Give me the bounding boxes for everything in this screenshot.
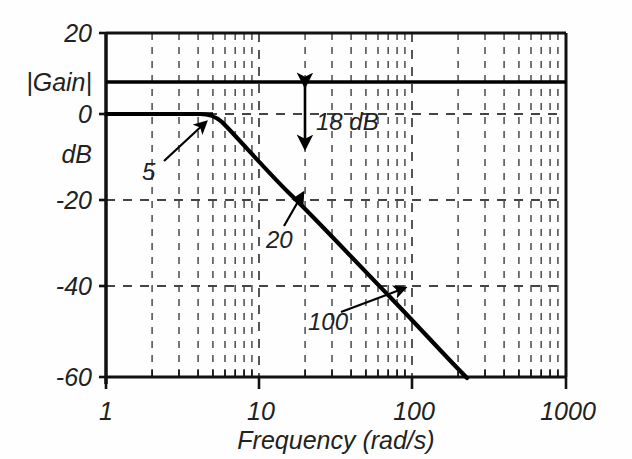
y-tick-0: 0 xyxy=(78,100,92,128)
horizontal-gridlines xyxy=(106,114,566,286)
x-axis-title: Frequency (rad/s) xyxy=(237,426,434,454)
x-tick-1000: 1000 xyxy=(540,397,596,425)
y-tick-m20: -20 xyxy=(56,186,92,214)
annotation-label-18db: 18 dB xyxy=(316,108,379,135)
x-axis-ticks xyxy=(106,377,566,389)
y-label-gain: |Gain| xyxy=(26,68,92,96)
annotation-label-20: 20 xyxy=(265,226,293,253)
y-label-db: dB xyxy=(61,140,92,168)
annotation-label-100: 100 xyxy=(308,308,349,335)
annotation-leader-5 xyxy=(164,122,206,161)
y-tick-m60: -60 xyxy=(56,363,92,391)
x-tick-1: 1 xyxy=(99,397,113,425)
x-tick-100: 100 xyxy=(393,397,435,425)
y-tick-m40: -40 xyxy=(56,272,92,300)
x-tick-10: 10 xyxy=(247,397,275,425)
y-tick-20: 20 xyxy=(63,19,92,47)
bode-plot-figure: 20 |Gain| 0 dB -20 -40 -60 1 10 100 1000… xyxy=(0,0,632,459)
minor-vertical-gridlines xyxy=(152,33,558,377)
annotation-label-5: 5 xyxy=(142,158,156,185)
bode-plot-svg: 20 |Gain| 0 dB -20 -40 -60 1 10 100 1000… xyxy=(0,0,632,459)
